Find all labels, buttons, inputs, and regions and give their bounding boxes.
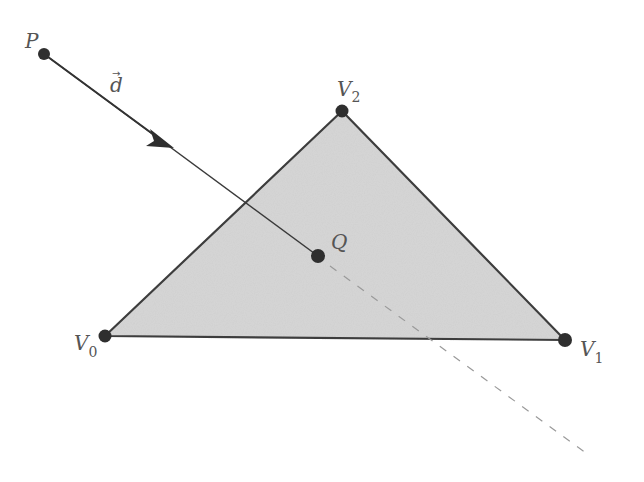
triangle — [105, 111, 565, 340]
point-Q — [311, 249, 325, 263]
label-V0: V0 — [74, 331, 97, 360]
ray-line-thick — [44, 54, 165, 143]
label-V1: V1 — [580, 337, 603, 366]
label-Q: Q — [331, 230, 347, 254]
label-V2: V2 — [337, 77, 360, 105]
point-P — [38, 48, 50, 60]
ray-triangle-diagram: P d → V2 Q V0 V1 — [0, 0, 644, 482]
direction-vector-arrow-icon: → — [112, 68, 120, 79]
point-V0 — [99, 330, 112, 343]
label-P: P — [24, 29, 39, 53]
point-V2 — [336, 105, 349, 118]
point-V1 — [558, 333, 572, 347]
